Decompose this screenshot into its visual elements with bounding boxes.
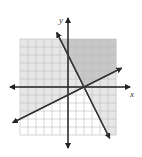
graph: y x: [0, 0, 142, 157]
x-axis-label: x: [129, 89, 134, 99]
y-axis-label: y: [58, 15, 63, 25]
